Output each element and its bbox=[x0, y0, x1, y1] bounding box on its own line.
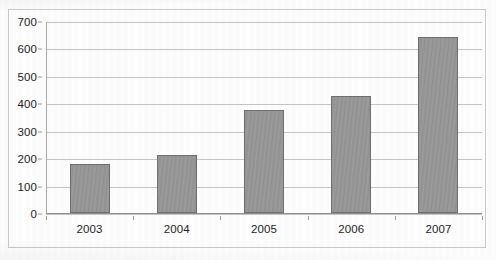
x-axis-tick-mark bbox=[482, 216, 483, 220]
y-axis-tick-mark bbox=[38, 131, 42, 132]
y-axis-tick-mark bbox=[38, 76, 42, 77]
bar-2004 bbox=[157, 155, 197, 213]
x-axis-tick-mark bbox=[395, 216, 396, 220]
plot-area bbox=[46, 22, 482, 214]
x-axis-tick-label: 2003 bbox=[77, 223, 103, 235]
bar-2005 bbox=[244, 110, 284, 213]
x-axis-tick-label: 2005 bbox=[251, 223, 277, 235]
x-axis-tick-label: 2006 bbox=[338, 223, 364, 235]
y-axis-tick-label: 500 bbox=[18, 71, 38, 83]
bar-2006 bbox=[331, 96, 371, 213]
x-axis: 20032004200520062007 bbox=[46, 216, 482, 244]
y-axis-tick-mark bbox=[38, 22, 42, 23]
x-axis-tick-mark bbox=[133, 216, 134, 220]
y-axis: 0100200300400500600700 bbox=[0, 22, 42, 214]
y-axis-tick-label: 600 bbox=[18, 43, 38, 55]
y-axis-tick-mark bbox=[38, 49, 42, 50]
y-axis-tick-mark bbox=[38, 186, 42, 187]
y-axis-tick-label: 400 bbox=[18, 98, 38, 110]
x-axis-tick-mark bbox=[46, 216, 47, 220]
y-axis-tick-label: 700 bbox=[18, 16, 38, 28]
y-axis-tick-mark bbox=[38, 214, 42, 215]
bar-2003 bbox=[70, 164, 110, 213]
x-axis-tick-label: 2007 bbox=[425, 223, 451, 235]
y-axis-tick-label: 0 bbox=[31, 208, 38, 220]
bar-series bbox=[46, 22, 482, 213]
bar-chart-screenshot: 0100200300400500600700 20032004200520062… bbox=[0, 0, 496, 260]
y-axis-tick-mark bbox=[38, 104, 42, 105]
y-axis-tick-label: 300 bbox=[18, 126, 38, 138]
y-axis-tick-mark bbox=[38, 159, 42, 160]
x-axis-line bbox=[46, 213, 482, 214]
bar-2007 bbox=[418, 37, 458, 213]
y-axis-tick-label: 200 bbox=[18, 153, 38, 165]
y-axis-tick-label: 100 bbox=[18, 181, 38, 193]
x-axis-tick-mark bbox=[220, 216, 221, 220]
x-axis-tick-mark bbox=[308, 216, 309, 220]
x-axis-tick-label: 2004 bbox=[164, 223, 190, 235]
gridline-0 bbox=[46, 214, 482, 215]
